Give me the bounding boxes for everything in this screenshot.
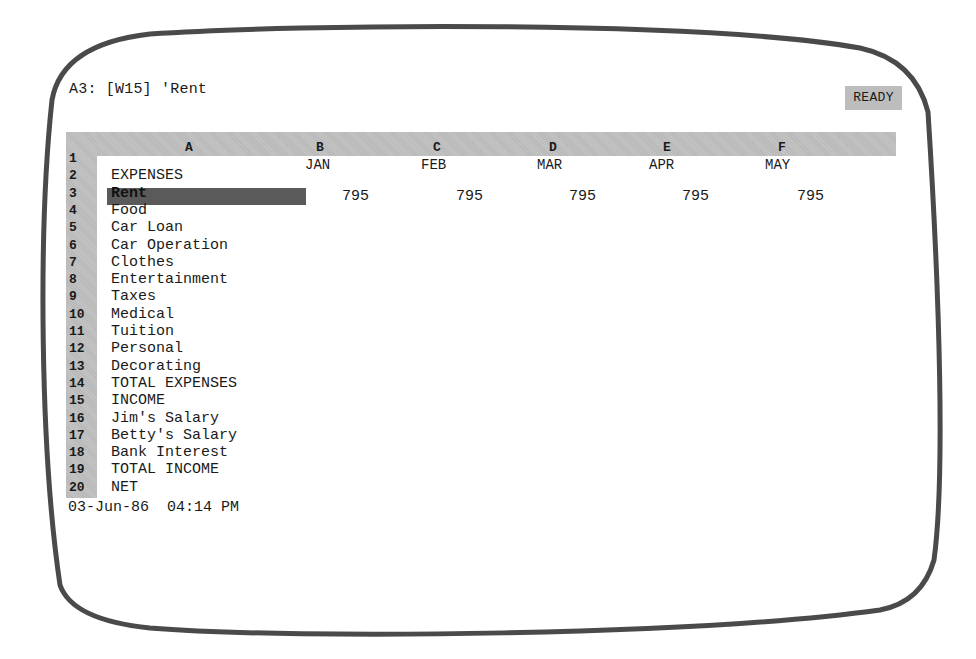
status-time: 04:14 PM xyxy=(167,499,239,516)
cell-a15[interactable]: INCOME xyxy=(111,392,165,409)
cell-d1-month[interactable]: MAR xyxy=(537,157,562,173)
cell-a20[interactable]: NET xyxy=(111,479,138,496)
row-header-10[interactable]: 10 xyxy=(69,306,85,323)
row-header-17[interactable]: 17 xyxy=(69,427,85,444)
cell-f1-month[interactable]: MAY xyxy=(765,157,790,173)
status-line: 03-Jun-86 04:14 PM xyxy=(68,499,239,516)
cell-a7[interactable]: Clothes xyxy=(111,254,174,271)
row-header-5[interactable]: 5 xyxy=(69,219,77,236)
row-header-20[interactable]: 20 xyxy=(69,479,85,496)
column-header-d[interactable]: D xyxy=(549,140,557,155)
cell-a12[interactable]: Personal xyxy=(111,340,183,357)
cell-a3[interactable]: Rent xyxy=(111,185,147,202)
cell-a9[interactable]: Taxes xyxy=(111,288,156,305)
row-header-6[interactable]: 6 xyxy=(69,237,77,254)
row-header-18[interactable]: 18 xyxy=(69,444,85,461)
row-header-11[interactable]: 11 xyxy=(69,323,85,340)
row-header-1[interactable]: 1 xyxy=(69,150,77,167)
cell-a4[interactable]: Food xyxy=(111,202,147,219)
column-header-e[interactable]: E xyxy=(663,140,671,155)
row-header-14[interactable]: 14 xyxy=(69,375,85,392)
row-header-12[interactable]: 12 xyxy=(69,340,85,357)
cell-a11[interactable]: Tuition xyxy=(111,323,174,340)
cell-a6[interactable]: Car Operation xyxy=(111,237,228,254)
row-header-19[interactable]: 19 xyxy=(69,461,85,478)
row-header-13[interactable]: 13 xyxy=(69,358,85,375)
column-header-a[interactable]: A xyxy=(185,140,193,155)
cell-d3-value[interactable]: 795 xyxy=(569,188,596,205)
cell-a18[interactable]: Bank Interest xyxy=(111,444,228,461)
cell-a16[interactable]: Jim's Salary xyxy=(111,410,219,427)
cell-a19[interactable]: TOTAL INCOME xyxy=(111,461,219,478)
cell-a17[interactable]: Betty's Salary xyxy=(111,427,237,444)
cell-format: [W15] xyxy=(106,81,152,98)
cell-a8[interactable]: Entertainment xyxy=(111,271,228,288)
cell-a13[interactable]: Decorating xyxy=(111,358,201,375)
row-header-3[interactable]: 3 xyxy=(69,185,77,202)
lotus-123-screen: A3: [W15] 'Rent READY ABCDEF 12345678910… xyxy=(0,0,976,659)
cell-contents: 'Rent xyxy=(161,81,207,98)
cell-c1-month[interactable]: FEB xyxy=(421,157,446,173)
column-header-c[interactable]: C xyxy=(433,140,441,155)
row-header-16[interactable]: 16 xyxy=(69,410,85,427)
row-header-9[interactable]: 9 xyxy=(69,288,77,305)
cell-f3-value[interactable]: 795 xyxy=(797,188,824,205)
cell-a14[interactable]: TOTAL EXPENSES xyxy=(111,375,237,392)
column-header-f[interactable]: F xyxy=(778,140,786,155)
row-header-2[interactable]: 2 xyxy=(69,167,77,184)
cell-a5[interactable]: Car Loan xyxy=(111,219,183,236)
cell-b1-month[interactable]: JAN xyxy=(305,157,330,173)
status-date: 03-Jun-86 xyxy=(68,499,149,516)
mode-indicator: READY xyxy=(845,86,902,110)
cell-address: A3: xyxy=(69,81,97,98)
row-header-4[interactable]: 4 xyxy=(69,202,77,219)
cell-a2[interactable]: EXPENSES xyxy=(111,167,183,184)
control-panel-line: A3: [W15] 'Rent xyxy=(69,81,207,98)
cell-c3-value[interactable]: 795 xyxy=(456,188,483,205)
cell-a10[interactable]: Medical xyxy=(111,306,174,323)
row-header-8[interactable]: 8 xyxy=(69,271,77,288)
cell-e1-month[interactable]: APR xyxy=(649,157,674,173)
cell-b3-value[interactable]: 795 xyxy=(342,188,369,205)
row-header-7[interactable]: 7 xyxy=(69,254,77,271)
column-header-b[interactable]: B xyxy=(316,140,324,155)
row-header-15[interactable]: 15 xyxy=(69,392,85,409)
cell-e3-value[interactable]: 795 xyxy=(682,188,709,205)
